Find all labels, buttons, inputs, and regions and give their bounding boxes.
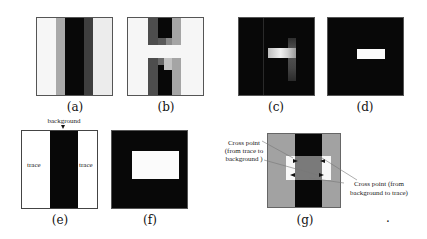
annotation-left-line1: Cross point [216,139,272,147]
annotation-left-line3: background ) [216,155,272,163]
annotation-right-line1: Cross point (from [344,180,414,188]
annotation-left-line2: (from trace to [216,147,272,155]
caption-g: (g) [285,213,325,227]
annotation-right-line2: background to trace) [344,189,414,197]
leader-lines [0,0,427,239]
trailing-period: . [368,211,408,225]
